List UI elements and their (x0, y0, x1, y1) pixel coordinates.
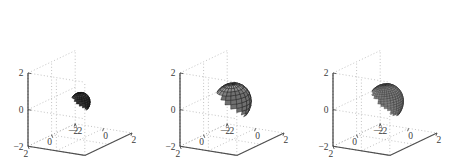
wall-grid-line (180, 51, 227, 73)
z-tick-label: 0 (323, 105, 328, 115)
x-tick-label: 0 (408, 131, 413, 141)
sphere-facet (382, 92, 384, 94)
y-tick-label: 2 (328, 149, 333, 159)
y-tick-label: 0 (47, 137, 52, 147)
y-tick-label: 2 (176, 149, 181, 159)
x-tick-label: 2 (436, 135, 441, 145)
z-tick-mark (333, 73, 336, 74)
x-axis-line (85, 133, 132, 155)
z-tick-mark (180, 110, 183, 111)
z-tick-mark (28, 110, 31, 111)
wall-grid-line (333, 110, 390, 119)
z-tick-label: 2 (19, 68, 24, 78)
sphere-facet (76, 102, 79, 104)
plot-panel-3: −20220−2−202 (305, 0, 457, 166)
axes-3d-1: −20220−2−202 (0, 0, 152, 166)
axes-3d-3: −20220−2−202 (305, 0, 457, 166)
sphere-surface-2 (217, 83, 251, 117)
x-tick-label: −2 (224, 126, 234, 136)
axes-3d-2: −20220−2−202 (152, 0, 304, 166)
z-tick-label: 2 (323, 68, 328, 78)
x-tick-label: −2 (72, 126, 82, 136)
z-tick-label: −2 (13, 142, 23, 152)
sphere-facet (378, 97, 381, 99)
x-tick-label: 2 (132, 135, 137, 145)
sphere-facet (77, 99, 80, 101)
z-tick-mark (180, 73, 183, 74)
y-tick-label: 2 (24, 149, 29, 159)
sphere-facet (381, 101, 384, 104)
y-tick-label: 0 (200, 137, 205, 147)
sphere-facet (381, 99, 384, 102)
wall-grid-line (333, 51, 380, 73)
wall-grid-line (180, 73, 237, 82)
wall-grid-line (180, 110, 237, 119)
wall-grid-line (28, 87, 75, 109)
x-tick-label: −2 (377, 126, 387, 136)
plot-panel-2: −20220−2−202 (152, 0, 304, 166)
wall-grid-line (28, 51, 75, 73)
sphere-facet (225, 100, 231, 105)
wall-grid-line (333, 73, 390, 82)
z-tick-label: −2 (166, 142, 176, 152)
x-axis-line (237, 133, 284, 155)
sphere-surface-3 (371, 84, 403, 116)
sphere-facet (231, 95, 236, 100)
z-tick-mark (28, 73, 31, 74)
z-tick-label: 0 (171, 105, 176, 115)
wall-grid-line (28, 110, 85, 119)
x-tick-label: 0 (103, 131, 108, 141)
sphere-facet (77, 97, 80, 99)
x-tick-label: 2 (284, 135, 289, 145)
z-tick-label: −2 (318, 142, 328, 152)
sphere-facet (381, 94, 384, 96)
sphere-facet (382, 90, 384, 92)
y-tick-label: 0 (352, 137, 357, 147)
sphere-surface-1 (72, 92, 90, 110)
sphere-facet (381, 96, 384, 99)
z-tick-label: 2 (171, 68, 176, 78)
figure-three-sphere-plots: −20220−2−202 −20220−2−202 −20220−2−202 (0, 0, 457, 166)
sphere-facet (380, 104, 383, 107)
z-tick-label: 0 (19, 105, 24, 115)
z-tick-mark (333, 110, 336, 111)
sphere-facet (378, 99, 381, 102)
sphere-facet (377, 102, 380, 105)
x-axis-line (389, 133, 436, 155)
plot-panel-1: −20220−2−202 (0, 0, 152, 166)
sphere-facet (226, 96, 231, 101)
x-tick-label: 0 (256, 131, 261, 141)
